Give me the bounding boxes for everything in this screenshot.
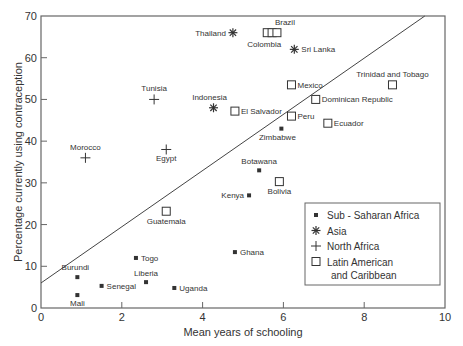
legend-item: Sub - Saharan Africa	[314, 210, 420, 221]
point-label: Ghana	[240, 248, 265, 257]
data-point: Dominican Republic	[312, 95, 393, 104]
asterisk-marker	[312, 226, 321, 235]
y-tick-label: 20	[25, 219, 37, 231]
x-tick-label: 4	[200, 311, 206, 323]
scatter-chart: 0246810010203040506070 BurundiMaliSenega…	[0, 0, 463, 346]
series-latin-american-and-caribbean: ColombiaBrazilMexicoDominican RepublicPe…	[147, 18, 430, 227]
data-point: Botawana	[241, 157, 277, 172]
asterisk-marker	[209, 103, 218, 112]
plus-marker	[149, 94, 159, 104]
legend: Sub - Saharan AfricaAsiaNorth AfricaLati…	[305, 203, 440, 285]
data-point: Peru	[287, 112, 314, 121]
point-label: Mexico	[297, 81, 323, 90]
data-point: Burundi	[62, 263, 90, 279]
data-point: Senegal	[100, 282, 137, 291]
filled-square-marker	[233, 250, 237, 254]
data-point: Trinidad and Tobago	[356, 70, 429, 89]
y-tick-label: 0	[31, 302, 37, 314]
point-label: Togo	[141, 254, 159, 263]
open-square-marker	[312, 95, 320, 103]
series-north-africa: TunisiaMoroccoEgypt	[70, 84, 177, 163]
point-label: Tunisia	[141, 84, 167, 93]
data-point: Tunisia	[141, 84, 167, 104]
point-label: Indonesia	[192, 93, 227, 102]
x-tick-label: 8	[361, 311, 367, 323]
point-label: Egypt	[156, 154, 177, 163]
plus-marker	[80, 153, 90, 163]
data-point: Ghana	[233, 248, 265, 257]
y-tick-label: 30	[25, 177, 37, 189]
data-point: Morocco	[70, 143, 101, 163]
data-point: El Salvador	[231, 107, 282, 116]
x-tick-label: 10	[439, 311, 451, 323]
point-label: Kenya	[221, 191, 244, 200]
point-label: Zimbabwe	[259, 133, 296, 142]
filled-square-marker	[144, 280, 148, 284]
point-label: Mali	[70, 299, 85, 308]
point-label: Burundi	[62, 263, 90, 272]
point-label: Ecuador	[334, 119, 364, 128]
filled-square-marker	[75, 293, 79, 297]
point-label: Senegal	[107, 282, 137, 291]
filled-square-marker	[257, 168, 261, 172]
open-square-marker	[312, 258, 320, 266]
data-point: Egypt	[156, 144, 177, 163]
data-point: Brazil	[273, 18, 295, 37]
x-tick-label: 6	[280, 311, 286, 323]
open-square-marker	[231, 107, 239, 115]
asterisk-marker	[290, 45, 299, 54]
point-label: Dominican Republic	[322, 95, 393, 104]
data-point: Mexico	[287, 81, 323, 90]
data-point: Bolivia	[268, 178, 292, 196]
point-label: Uganda	[179, 284, 208, 293]
point-label: Brazil	[275, 18, 295, 27]
filled-square-marker	[172, 286, 176, 290]
point-label: Thailand	[195, 29, 226, 38]
filled-square-marker	[100, 284, 104, 288]
y-tick-label: 50	[25, 93, 37, 105]
open-square-marker	[287, 81, 295, 89]
x-tick-label: 0	[38, 311, 44, 323]
filled-square-marker	[134, 256, 138, 260]
point-label: Sri Lanka	[301, 45, 335, 54]
open-square-marker	[162, 207, 170, 215]
data-point: Indonesia	[192, 93, 227, 113]
legend-label: Sub - Saharan Africa	[327, 210, 420, 221]
y-tick-label: 10	[25, 260, 37, 272]
data-point: Ecuador	[324, 119, 364, 128]
y-axis-title: Percentage currently using contraception	[12, 62, 24, 262]
filled-square-marker	[75, 275, 79, 279]
open-square-marker	[324, 119, 332, 127]
filled-square-marker	[279, 127, 283, 131]
open-square-marker	[273, 29, 281, 37]
point-label: Morocco	[70, 143, 101, 152]
open-square-marker	[388, 81, 396, 89]
point-label: Guatemala	[147, 217, 187, 226]
filled-square-marker	[247, 193, 251, 197]
open-square-marker	[287, 112, 295, 120]
point-label: Bolivia	[268, 187, 292, 196]
data-point: Kenya	[221, 191, 251, 200]
data-point: Togo	[134, 254, 159, 263]
plus-marker	[161, 144, 171, 154]
point-label: Colombia	[247, 40, 281, 49]
legend-label: Asia	[327, 226, 347, 237]
x-axis-title: Mean years of schooling	[183, 326, 302, 338]
point-label: Trinidad and Tobago	[356, 70, 429, 79]
y-tick-label: 40	[25, 135, 37, 147]
x-tick-label: 2	[119, 311, 125, 323]
data-point: Uganda	[172, 284, 208, 293]
point-label: Botawana	[241, 157, 277, 166]
asterisk-marker	[228, 28, 237, 37]
y-tick-label: 70	[25, 10, 37, 22]
point-label: Liberia	[134, 269, 159, 278]
legend-label: North Africa	[327, 241, 380, 252]
point-label: Peru	[297, 112, 314, 121]
legend-label: Latin American	[327, 257, 393, 268]
legend-label-line2: and Caribbean	[331, 270, 397, 281]
data-point: Guatemala	[147, 207, 187, 226]
open-square-marker	[275, 178, 283, 186]
y-tick-label: 60	[25, 52, 37, 64]
point-label: El Salvador	[241, 107, 282, 116]
data-point: Sri Lanka	[290, 45, 336, 55]
